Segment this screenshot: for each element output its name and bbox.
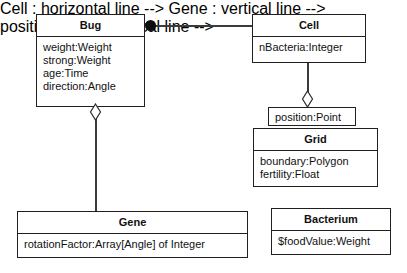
association-line-bug-gene	[95, 112, 97, 212]
uml-attribute: fertility:Float	[260, 168, 372, 181]
association-line-bug-cell	[150, 25, 254, 27]
uml-class-diagram-canvas: Cell : horizontal line --> Gene : vertic…	[0, 0, 407, 273]
uml-attributes-bug: weight:Weight strong:Weight age:Time dir…	[37, 37, 144, 97]
aggregation-hollow-diamond-icon-bug-gene	[89, 103, 102, 121]
uml-class-name-bacterium: Bacterium	[272, 209, 390, 231]
uml-attribute: weight:Weight	[43, 41, 139, 54]
uml-attribute: age:Time	[43, 67, 139, 80]
aggregation-hollow-diamond-icon-cell-position	[301, 90, 314, 108]
uml-attribute: strong:Weight	[43, 54, 139, 67]
composition-filled-diamond-icon	[145, 20, 156, 31]
uml-class-name-gene: Gene	[18, 212, 247, 234]
uml-attributes-gene: rotationFactor:Array[Angle] of Integer	[18, 234, 247, 255]
uml-attributes-cell: nBacteria:Integer	[253, 37, 365, 58]
uml-attributes-grid: boundary:Polygon fertility:Float	[254, 151, 377, 185]
uml-attribute: nBacteria:Integer	[259, 41, 360, 54]
uml-class-name-grid: Grid	[254, 129, 377, 151]
uml-class-name-cell: Cell	[253, 15, 365, 37]
uml-class-cell[interactable]: Cell nBacteria:Integer	[252, 14, 366, 63]
uml-slot-position-point[interactable]: position:Point	[268, 107, 356, 126]
uml-attributes-bacterium: $foodValue:Weight	[272, 231, 390, 252]
uml-attribute: boundary:Polygon	[260, 155, 372, 168]
uml-class-name-bug: Bug	[37, 15, 144, 37]
uml-class-bug[interactable]: Bug weight:Weight strong:Weight age:Time…	[36, 14, 145, 107]
uml-attribute: rotationFactor:Array[Angle] of Integer	[24, 238, 242, 251]
uml-class-gene[interactable]: Gene rotationFactor:Array[Angle] of Inte…	[17, 211, 248, 258]
uml-attribute: direction:Angle	[43, 80, 139, 93]
uml-attribute: $foodValue:Weight	[278, 235, 385, 248]
uml-class-bacterium[interactable]: Bacterium $foodValue:Weight	[271, 208, 391, 255]
uml-class-grid[interactable]: Grid boundary:Polygon fertility:Float	[253, 128, 378, 187]
